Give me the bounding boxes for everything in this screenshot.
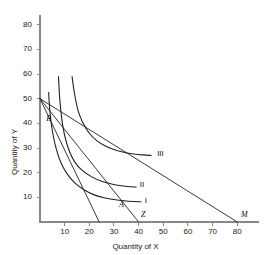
axes bbox=[37, 15, 260, 226]
curve-label-ii: II bbox=[140, 180, 144, 189]
y-axis-tick-label: 50 bbox=[0, 94, 32, 103]
x-axis-tick-label: 40 bbox=[127, 227, 151, 236]
x-axis-tick-label: 20 bbox=[77, 227, 101, 236]
curve-label-i: I bbox=[145, 196, 147, 205]
data-series bbox=[40, 77, 237, 222]
x-axis-tick-label: 30 bbox=[102, 227, 126, 236]
point-label-m: M bbox=[241, 210, 248, 219]
chart-plot-area bbox=[0, 0, 271, 255]
point-label-a: A bbox=[119, 200, 124, 209]
y-axis-title: Quantity of Y bbox=[10, 129, 19, 175]
y-axis-tick-label: 80 bbox=[0, 20, 32, 29]
x-axis-tick-label: 80 bbox=[225, 227, 249, 236]
point-label-z: Z bbox=[141, 210, 145, 219]
indifference-curve bbox=[49, 93, 141, 202]
x-axis-title: Quantity of X bbox=[0, 242, 271, 251]
indifference-curve-chart: 10203040506070801020304050607080 BAZMIII… bbox=[0, 0, 271, 255]
x-axis-tick-label: 50 bbox=[151, 227, 175, 236]
y-axis-tick-label: 60 bbox=[0, 69, 32, 78]
y-axis-tick-label: 10 bbox=[0, 192, 32, 201]
x-axis-tick-label: 70 bbox=[201, 227, 225, 236]
curve-label-iii: III bbox=[157, 149, 164, 158]
point-label-b: B bbox=[46, 114, 51, 123]
x-axis-tick-label: 10 bbox=[53, 227, 77, 236]
x-axis-tick-label: 60 bbox=[176, 227, 200, 236]
y-axis-tick-label: 70 bbox=[0, 44, 32, 53]
y-axis-tick-label: 40 bbox=[0, 118, 32, 127]
